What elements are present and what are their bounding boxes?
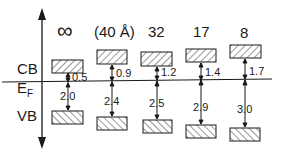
energy-axis <box>38 8 46 149</box>
cb-gap-5: 1.7 <box>249 66 264 77</box>
vb-box-3 <box>143 120 172 133</box>
cb-gap-1: 0.5 <box>72 72 87 83</box>
vb-box-4 <box>186 125 216 138</box>
label-vb: VB <box>17 108 37 123</box>
cb-box-3 <box>141 52 172 66</box>
vb-gap-2: 2.4 <box>104 96 119 107</box>
vb-box-2 <box>97 117 127 130</box>
cb-gap-3: 1.2 <box>161 67 176 78</box>
cb-box-4 <box>186 49 216 62</box>
vb-gap-5: 3.0 <box>237 104 252 115</box>
cb-gap-4: 1.4 <box>205 67 220 78</box>
vb-gap-3: 2.5 <box>149 98 164 109</box>
band-diagram <box>0 0 288 152</box>
cb-gap-2: 0.9 <box>116 68 131 79</box>
vb-box-5 <box>230 128 260 141</box>
axis-up-arrow-icon <box>38 8 46 20</box>
header-40A: (40 Å) <box>94 24 135 39</box>
label-cb: CB <box>17 61 38 76</box>
vb-box-1 <box>52 111 83 124</box>
label-ef-main: E <box>17 79 27 96</box>
cb-box-2 <box>97 50 127 64</box>
header-8: 8 <box>240 25 248 40</box>
vb-gap-1: 2.0 <box>60 91 75 102</box>
header-infinity: ∞ <box>57 20 73 42</box>
header-32: 32 <box>148 24 165 39</box>
axis-down-arrow-icon <box>38 137 46 149</box>
label-ef-sub: F <box>27 88 33 99</box>
vb-gap-4: 2.9 <box>193 102 208 113</box>
label-ef: EF <box>17 80 33 99</box>
header-17: 17 <box>193 24 210 39</box>
cb-box-5 <box>230 45 261 58</box>
